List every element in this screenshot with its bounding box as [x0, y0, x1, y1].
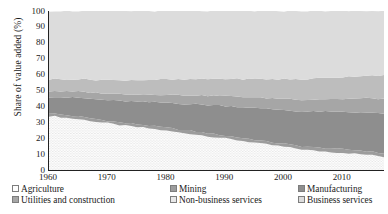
y-tick-30: 30 — [36, 118, 45, 127]
x-tick-1960: 1960 — [39, 172, 57, 182]
legend-row-1: Agriculture Mining Manufacturing — [12, 183, 380, 194]
legend-swatch-utilities-and-construction — [12, 196, 19, 203]
y-tick-50: 50 — [36, 86, 45, 95]
legend-item-mining: Mining — [170, 184, 298, 194]
x-tick-1970: 1970 — [98, 172, 116, 182]
legend-swatch-agriculture — [12, 185, 19, 192]
legend-label-manufacturing: Manufacturing — [307, 184, 362, 194]
legend-label-business-services: Business services — [307, 195, 372, 205]
y-tick-40: 40 — [36, 102, 45, 111]
y-tick-90: 90 — [36, 22, 45, 31]
legend-swatch-non-business-services — [170, 196, 177, 203]
legend-item-non-business-services: Non-business services — [170, 195, 298, 205]
legend-item-business-services: Business services — [298, 195, 372, 205]
legend-swatch-mining — [170, 185, 177, 192]
chart-figure: Share of value added (%) 100908070605040… — [0, 0, 388, 214]
stacked-areas — [49, 11, 384, 170]
legend-label-mining: Mining — [179, 184, 206, 194]
chart-legend: Agriculture Mining Manufacturing Utiliti… — [12, 183, 380, 205]
legend-item-manufacturing: Manufacturing — [298, 184, 362, 194]
y-tick-100: 100 — [32, 7, 46, 16]
area-business-services — [49, 11, 384, 81]
x-tick-1980: 1980 — [157, 172, 175, 182]
legend-item-agriculture: Agriculture — [12, 184, 170, 194]
y-axis-tick-labels: 1009080706050403020100 — [17, 6, 45, 176]
y-tick-20: 20 — [36, 134, 45, 143]
y-tick-60: 60 — [36, 70, 45, 79]
legend-label-utilities-and-construction: Utilities and construction — [21, 195, 115, 205]
legend-swatch-business-services — [298, 196, 305, 203]
x-tick-2000: 2000 — [274, 172, 292, 182]
legend-row-2: Utilities and construction Non-business … — [12, 194, 380, 205]
legend-label-agriculture: Agriculture — [21, 184, 64, 194]
y-tick-80: 80 — [36, 38, 45, 47]
x-tick-1990: 1990 — [215, 172, 233, 182]
legend-item-utilities-and-construction: Utilities and construction — [12, 195, 170, 205]
y-tick-70: 70 — [36, 54, 45, 63]
legend-swatch-manufacturing — [298, 185, 305, 192]
x-tick-2010: 2010 — [333, 172, 351, 182]
y-tick-10: 10 — [36, 150, 45, 159]
legend-label-non-business-services: Non-business services — [179, 195, 262, 205]
plot-area — [48, 11, 384, 171]
